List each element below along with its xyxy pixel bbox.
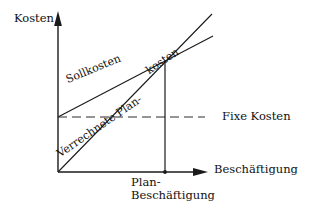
y-axis-arrowhead — [54, 11, 62, 26]
diagram-canvas: Kosten Beschäftigung Sollkosten Verrechn… — [0, 0, 313, 206]
y-axis-label-text: Kosten — [14, 11, 54, 25]
x-axis-label-text: Beschäftigung — [214, 162, 298, 176]
plan-beschaeftigung-marker — [163, 170, 167, 174]
fixe-kosten-label: Fixe Kosten — [222, 110, 291, 123]
plan-beschaeftigung-line2: Beschäftigung — [131, 189, 215, 202]
y-axis-label: Kosten — [14, 12, 54, 25]
x-axis-label: Beschäftigung — [214, 163, 298, 176]
x-axis-arrowhead — [193, 168, 208, 176]
plan-beschaeftigung-label: Plan- Beschäftigung — [131, 176, 215, 202]
plan-beschaeftigung-line1: Plan- — [131, 175, 161, 189]
